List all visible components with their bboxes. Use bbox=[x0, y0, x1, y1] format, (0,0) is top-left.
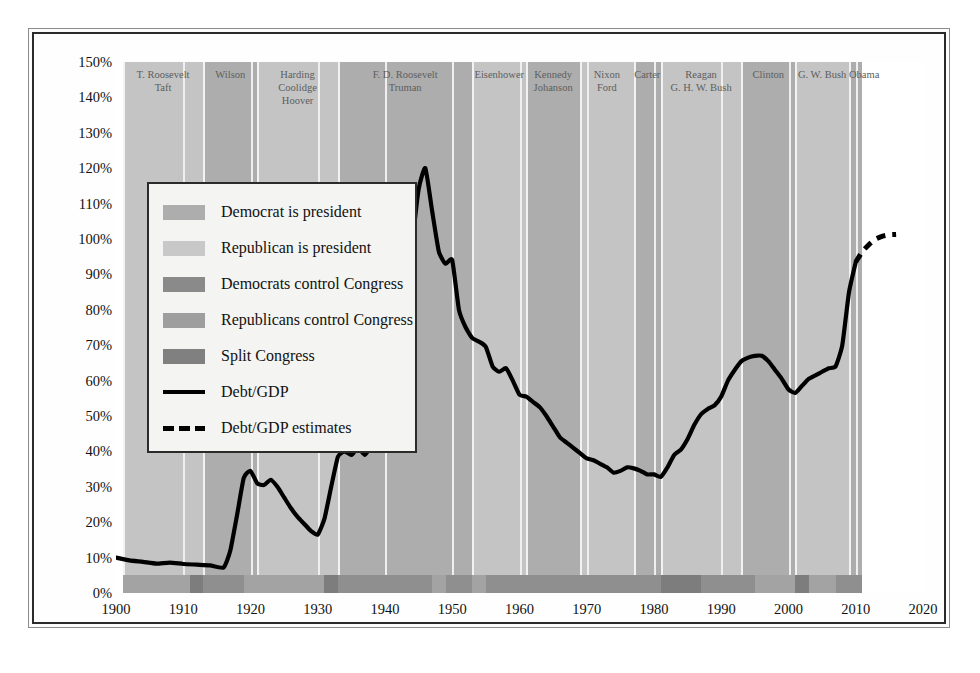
congress-segment bbox=[661, 575, 701, 593]
gridline bbox=[789, 62, 791, 593]
legend-label: Democrat is president bbox=[221, 203, 361, 221]
y-axis-tick-label: 0% bbox=[38, 585, 112, 602]
figure-frame-inner: 150%140%130%120%110%100%90%80%70%60%50%4… bbox=[32, 32, 946, 624]
y-axis-tick-label: 50% bbox=[38, 408, 112, 425]
legend-label: Republican is president bbox=[221, 239, 371, 257]
y-axis: 150%140%130%120%110%100%90%80%70%60%50%4… bbox=[34, 62, 112, 593]
legend-swatch-icon bbox=[163, 277, 205, 292]
legend-item: Debt/GDP estimates bbox=[149, 410, 415, 446]
congress-segment bbox=[836, 575, 863, 593]
president-band bbox=[741, 62, 795, 593]
congress-segment bbox=[755, 575, 795, 593]
congress-segment bbox=[324, 575, 337, 593]
x-axis-tick-label: 1940 bbox=[371, 601, 400, 618]
president-band bbox=[472, 62, 526, 593]
congress-segment bbox=[486, 575, 661, 593]
y-axis-tick-label: 20% bbox=[38, 514, 112, 531]
x-axis-tick-label: 1950 bbox=[438, 601, 467, 618]
x-axis-tick-label: 1910 bbox=[169, 601, 198, 618]
legend-label: Debt/GDP estimates bbox=[221, 419, 352, 437]
congress-segment bbox=[338, 575, 432, 593]
congress-segment bbox=[432, 575, 445, 593]
y-axis-tick-label: 40% bbox=[38, 443, 112, 460]
y-axis-tick-label: 30% bbox=[38, 478, 112, 495]
congress-segment bbox=[795, 575, 808, 593]
legend-swatch-icon bbox=[163, 241, 205, 256]
congress-segment bbox=[472, 575, 485, 593]
congress-segment bbox=[190, 575, 203, 593]
legend-swatch-icon bbox=[163, 313, 205, 328]
legend-item: Republican is president bbox=[149, 230, 415, 266]
legend-swatch-icon bbox=[163, 205, 205, 220]
band-separator bbox=[580, 62, 582, 593]
x-axis-tick-label: 1920 bbox=[236, 601, 265, 618]
x-axis: 1900191019201930194019501960197019801990… bbox=[116, 597, 923, 627]
y-axis-tick-label: 90% bbox=[38, 266, 112, 283]
band-separator bbox=[849, 62, 851, 593]
congress-segment bbox=[701, 575, 755, 593]
x-axis-tick-label: 2020 bbox=[909, 601, 938, 618]
president-band bbox=[634, 62, 661, 593]
band-separator bbox=[472, 62, 474, 593]
band-separator bbox=[741, 62, 743, 593]
y-axis-tick-label: 70% bbox=[38, 337, 112, 354]
legend-dashed-line-icon bbox=[163, 426, 205, 431]
legend-label: Democrats control Congress bbox=[221, 275, 403, 293]
legend-item: Democrats control Congress bbox=[149, 266, 415, 302]
y-axis-tick-label: 60% bbox=[38, 372, 112, 389]
congress-control-bar bbox=[123, 575, 863, 593]
band-separator bbox=[795, 62, 797, 593]
president-band bbox=[795, 62, 849, 593]
chart-legend: Democrat is presidentRepublican is presi… bbox=[147, 182, 417, 453]
x-axis-tick-label: 2010 bbox=[841, 601, 870, 618]
y-axis-tick-label: 10% bbox=[38, 549, 112, 566]
president-band bbox=[526, 62, 580, 593]
figure-frame: 150%140%130%120%110%100%90%80%70%60%50%4… bbox=[28, 28, 950, 628]
congress-segment bbox=[123, 575, 190, 593]
x-axis-tick-label: 1900 bbox=[102, 601, 131, 618]
gridline bbox=[520, 62, 522, 593]
congress-segment bbox=[203, 575, 243, 593]
gridline bbox=[856, 62, 858, 593]
debt-to-gdp-chart: 150%140%130%120%110%100%90%80%70%60%50%4… bbox=[34, 34, 944, 622]
y-axis-tick-label: 120% bbox=[38, 160, 112, 177]
y-axis-tick-label: 150% bbox=[38, 54, 112, 71]
y-axis-tick-label: 110% bbox=[38, 195, 112, 212]
band-separator bbox=[526, 62, 528, 593]
y-axis-tick-label: 80% bbox=[38, 301, 112, 318]
x-axis-tick-label: 1970 bbox=[572, 601, 601, 618]
y-axis-tick-label: 130% bbox=[38, 124, 112, 141]
y-axis-tick-label: 140% bbox=[38, 89, 112, 106]
gridline bbox=[654, 62, 656, 593]
legend-item: Republicans control Congress bbox=[149, 302, 415, 338]
legend-item: Democrat is president bbox=[149, 194, 415, 230]
legend-swatch-icon bbox=[163, 349, 205, 364]
band-separator bbox=[634, 62, 636, 593]
y-axis-tick-label: 100% bbox=[38, 231, 112, 248]
legend-label: Debt/GDP bbox=[221, 383, 289, 401]
x-axis-tick-label: 2000 bbox=[774, 601, 803, 618]
legend-item: Split Congress bbox=[149, 338, 415, 374]
legend-label: Split Congress bbox=[221, 347, 315, 365]
gridline bbox=[452, 62, 454, 593]
congress-segment bbox=[446, 575, 473, 593]
president-band bbox=[661, 62, 742, 593]
gridline bbox=[587, 62, 589, 593]
x-axis-tick-label: 1980 bbox=[640, 601, 669, 618]
gridline bbox=[721, 62, 723, 593]
band-separator bbox=[123, 62, 125, 593]
legend-label: Republicans control Congress bbox=[221, 311, 413, 329]
x-axis-tick-label: 1930 bbox=[303, 601, 332, 618]
legend-item: Debt/GDP bbox=[149, 374, 415, 410]
band-separator bbox=[661, 62, 663, 593]
legend-solid-line-icon bbox=[163, 390, 205, 394]
x-axis-tick-label: 1960 bbox=[505, 601, 534, 618]
x-axis-tick-label: 1990 bbox=[707, 601, 736, 618]
congress-segment bbox=[809, 575, 836, 593]
congress-segment bbox=[244, 575, 325, 593]
